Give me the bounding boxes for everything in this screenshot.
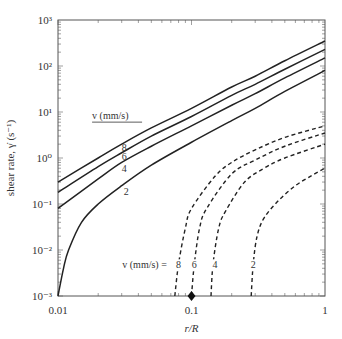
y-axis-label: shear rate, γ̇ (s⁻¹) bbox=[4, 120, 17, 197]
y-tick-label: 10² bbox=[38, 60, 53, 72]
solid-curve-label: 2 bbox=[124, 186, 129, 197]
y-tick-label: 10⁰ bbox=[37, 152, 53, 164]
y-tick-label: 10⁻¹ bbox=[32, 198, 52, 210]
dashed-group-label: v (mm/s) = bbox=[122, 259, 167, 271]
curve-dashed-v2 bbox=[251, 168, 325, 296]
y-tick-label: 10⁻² bbox=[32, 244, 53, 256]
solid-curve-label: 6 bbox=[122, 151, 127, 162]
curve-solid-v4 bbox=[58, 58, 325, 209]
curve-dashed-v4 bbox=[211, 144, 325, 296]
y-tick-label: 10¹ bbox=[38, 106, 52, 118]
curves bbox=[58, 41, 325, 296]
curve-dashed-v6 bbox=[192, 133, 326, 296]
y-tick-label: 10³ bbox=[38, 14, 53, 26]
dashed-curve-label: 6 bbox=[192, 259, 197, 270]
x-tick-label: 1 bbox=[322, 304, 328, 316]
solid-curve-label: 4 bbox=[122, 163, 127, 174]
x-tick-label: 0.1 bbox=[185, 304, 199, 316]
diamond-marker bbox=[188, 291, 196, 301]
dashed-curve-label: 4 bbox=[213, 259, 218, 270]
x-tick-label: 0.01 bbox=[48, 304, 67, 316]
dashed-curve-label: 8 bbox=[176, 259, 181, 270]
shear-rate-chart: 0.010.1110⁻³10⁻²10⁻¹10⁰10¹10²10³r/Rshear… bbox=[0, 0, 342, 339]
labels: 0.010.1110⁻³10⁻²10⁻¹10⁰10¹10²10³r/Rshear… bbox=[4, 14, 328, 334]
solid-group-label: v (mm/s) bbox=[92, 110, 128, 122]
y-tick-label: 10⁻³ bbox=[32, 290, 53, 302]
x-axis-label: r/R bbox=[184, 322, 198, 334]
dashed-curve-label: 2 bbox=[251, 259, 256, 270]
